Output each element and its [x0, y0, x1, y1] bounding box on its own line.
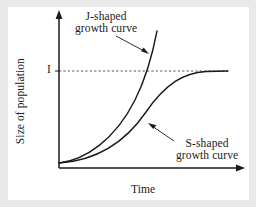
y-axis-tick-label: I: [47, 63, 51, 75]
j-curve-label-line-2: growth curve: [75, 22, 137, 34]
s-curve-annotation-label: S-shaped growth curve: [176, 137, 238, 161]
figure-container: J-shaped growth curve S-shaped growth cu…: [0, 0, 256, 207]
x-axis-arrow-icon: [236, 165, 245, 172]
x-axis-label: Time: [131, 183, 155, 195]
s-curve-label-line-1: S-shaped: [176, 137, 238, 149]
j-label-leader-line: [116, 36, 146, 52]
j-curve-annotation-label: J-shaped growth curve: [75, 10, 137, 34]
y-axis-arrow-icon: [56, 10, 63, 19]
s-curve-label-line-2: growth curve: [176, 149, 238, 161]
j-label-arrowhead-icon: [141, 48, 149, 54]
j-curve-label-line-1: J-shaped: [75, 10, 137, 22]
s-label-leader-line: [152, 126, 174, 141]
y-axis-label: Size of population: [14, 41, 26, 161]
